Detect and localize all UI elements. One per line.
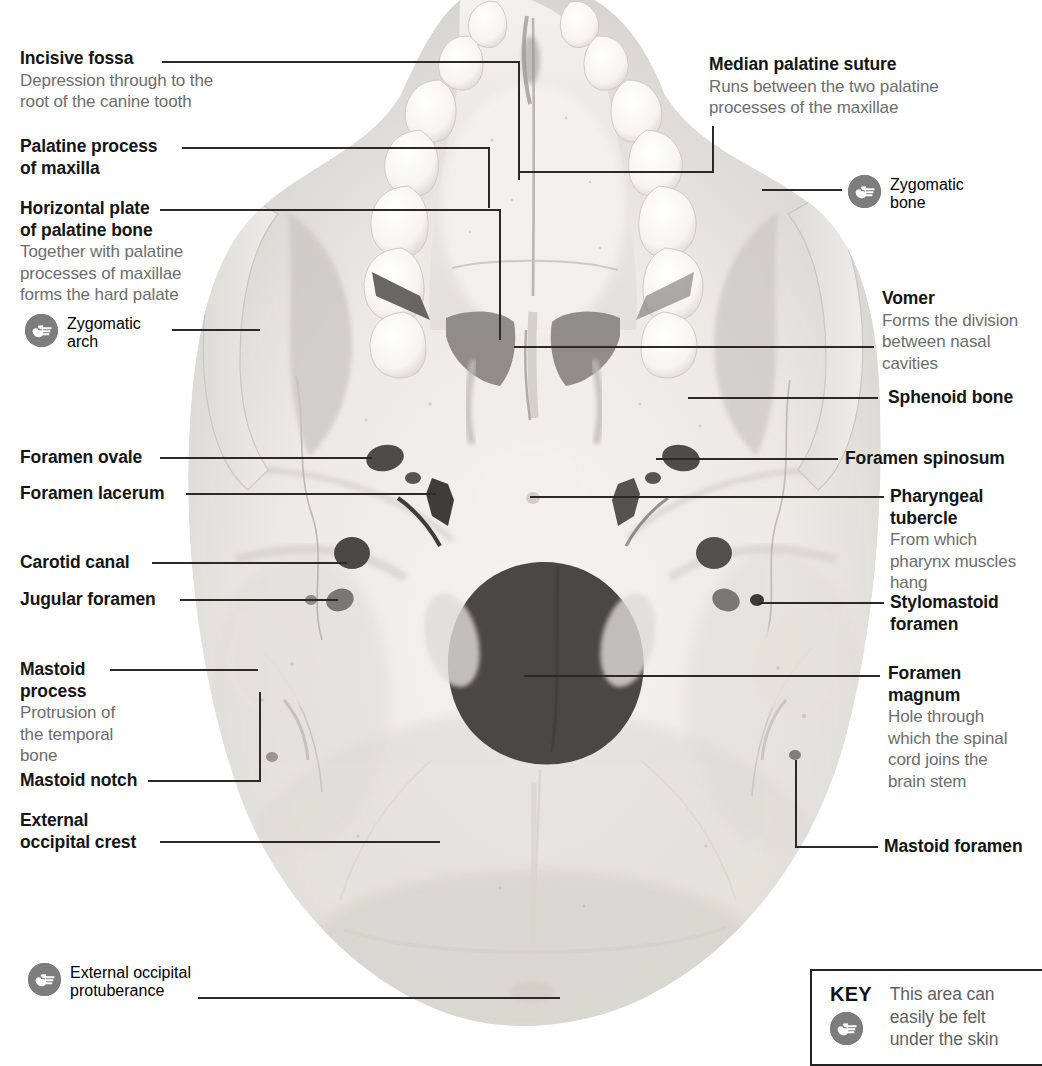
stylomastoid-foramen (750, 594, 764, 606)
label-zygomatic-arch[interactable]: Zygomatic arch (25, 314, 141, 351)
carotid-canal-left (334, 537, 370, 569)
label-stylomastoid-foramen[interactable]: Stylomastoid foramen (890, 592, 999, 635)
label-median-palatine-suture[interactable]: Median palatine suture Runs between the … (709, 54, 939, 119)
label-title: Horizontal plate of palatine bone (20, 198, 183, 241)
label-foramen-spinosum[interactable]: Foramen spinosum (845, 448, 1005, 470)
label-title: Pharyngeal tubercle (890, 486, 1016, 529)
label-external-occipital-crest[interactable]: External occipital crest (20, 810, 136, 853)
label-carotid-canal[interactable]: Carotid canal (20, 552, 130, 574)
label-title: Carotid canal (20, 552, 130, 574)
label-incisive-fossa[interactable]: Incisive fossa Depression through to the… (20, 48, 213, 113)
label-vomer[interactable]: Vomer Forms the division between nasal c… (882, 288, 1018, 374)
label-external-occipital-protuberance[interactable]: External occipital protuberance (28, 963, 191, 1000)
label-title: Mastoid notch (20, 770, 137, 792)
label-title: Jugular foramen (20, 589, 156, 611)
label-title: Palatine process of maxilla (20, 136, 158, 179)
pointing-hand-icon (830, 1012, 863, 1045)
label-palatine-process-of-maxilla[interactable]: Palatine process of maxilla (20, 136, 158, 179)
label-title: Sphenoid bone (888, 387, 1013, 409)
key-legend-box: KEY This area can easily be felt under t… (810, 969, 1042, 1066)
key-description: This area can easily be felt under the s… (890, 983, 999, 1051)
pointing-hand-icon (28, 963, 61, 996)
label-title: Stylomastoid foramen (890, 592, 999, 635)
label-title: Zygomatic bone (890, 176, 964, 212)
label-mastoid-notch[interactable]: Mastoid notch (20, 770, 137, 792)
label-title: External occipital crest (20, 810, 136, 853)
label-title: Foramen spinosum (845, 448, 1005, 470)
label-title: External occipital protuberance (70, 964, 191, 1000)
pointing-hand-icon (848, 175, 881, 208)
key-label: KEY (830, 983, 872, 1005)
label-sphenoid-bone[interactable]: Sphenoid bone (888, 387, 1013, 409)
label-title: Foramen magnum (888, 663, 1007, 706)
pointing-hand-icon (25, 314, 58, 347)
label-description: Protrusion of the temporal bone (20, 702, 115, 767)
label-zygomatic-bone[interactable]: Zygomatic bone (848, 175, 964, 212)
label-description: Hole through which the spinal cord joins… (888, 706, 1007, 792)
mastoid-foramen-left (266, 752, 278, 762)
label-title: Foramen ovale (20, 447, 142, 469)
label-foramen-ovale[interactable]: Foramen ovale (20, 447, 142, 469)
label-foramen-lacerum[interactable]: Foramen lacerum (20, 483, 164, 505)
label-description: Runs between the two palatine processes … (709, 76, 939, 119)
label-jugular-foramen[interactable]: Jugular foramen (20, 589, 156, 611)
label-mastoid-process[interactable]: Mastoid process Protrusion of the tempor… (20, 659, 115, 767)
label-title: Foramen lacerum (20, 483, 164, 505)
mastoid-foramen (789, 750, 801, 760)
label-description: Together with palatine processes of maxi… (20, 241, 183, 306)
label-mastoid-foramen[interactable]: Mastoid foramen (884, 836, 1023, 858)
label-title: Mastoid process (20, 659, 115, 702)
label-title: Vomer (882, 288, 1018, 310)
label-foramen-magnum[interactable]: Foramen magnum Hole through which the sp… (888, 663, 1007, 792)
label-title: Median palatine suture (709, 54, 939, 76)
label-pharyngeal-tubercle[interactable]: Pharyngeal tubercle From which pharynx m… (890, 486, 1016, 594)
carotid-canal-right (696, 537, 732, 569)
label-description: From which pharynx muscles hang (890, 529, 1016, 594)
label-title: Incisive fossa (20, 48, 213, 70)
label-description: Forms the division between nasal cavitie… (882, 310, 1018, 375)
label-title: Zygomatic arch (67, 315, 141, 351)
label-title: Mastoid foramen (884, 836, 1023, 858)
cranium-outline (188, 0, 881, 1050)
label-description: Depression through to the root of the ca… (20, 70, 213, 113)
label-horizontal-plate-of-palatine-bone[interactable]: Horizontal plate of palatine bone Togeth… (20, 198, 183, 306)
